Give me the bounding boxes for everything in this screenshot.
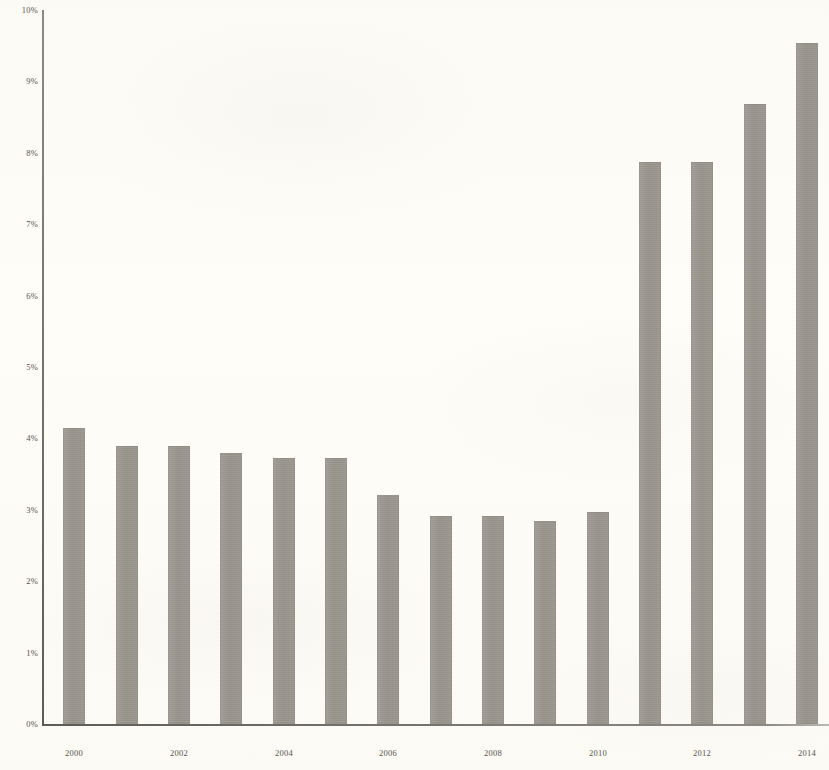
y-axis-tick-0pct: 0% — [4, 719, 38, 729]
bar-2007 — [430, 516, 452, 724]
x-axis-tick-2002: 2002 — [170, 748, 188, 758]
bar-2000 — [63, 428, 85, 724]
x-axis-tick-2000: 2000 — [65, 748, 83, 758]
bar-2005 — [325, 458, 347, 724]
x-axis-tick-2004: 2004 — [275, 748, 293, 758]
y-axis-tick-4pct: 4% — [4, 433, 38, 443]
bar-2003 — [220, 453, 242, 724]
bar-2004 — [273, 458, 295, 724]
y-axis-tick-9pct: 9% — [4, 76, 38, 86]
bar-2010 — [587, 512, 609, 724]
x-axis-tick-2014: 2014 — [798, 748, 816, 758]
x-axis-tick-2006: 2006 — [379, 748, 397, 758]
bar-chart-figure: 0%1%2%3%4%5%6%7%8%9%10% 2000200220042006… — [0, 0, 829, 770]
bar-2011 — [639, 162, 661, 724]
bar-2013 — [744, 104, 766, 724]
x-axis-tick-2010: 2010 — [589, 748, 607, 758]
y-axis-tick-2pct: 2% — [4, 576, 38, 586]
y-axis-tick-3pct: 3% — [4, 505, 38, 515]
bar-2012 — [691, 162, 713, 724]
y-axis-tick-6pct: 6% — [4, 291, 38, 301]
y-axis-tick-8pct: 8% — [4, 148, 38, 158]
y-axis-tick-10pct: 10% — [4, 5, 38, 15]
bars-layer — [44, 10, 829, 724]
bar-2006 — [377, 495, 399, 724]
y-axis-tick-5pct: 5% — [4, 362, 38, 372]
bar-2008 — [482, 516, 504, 724]
plot-area — [42, 10, 829, 726]
x-axis-tick-2012: 2012 — [693, 748, 711, 758]
bar-2014 — [796, 43, 818, 724]
x-axis-tick-labels: 20002002200420062008201020122014 — [42, 748, 829, 768]
x-axis-tick-2008: 2008 — [484, 748, 502, 758]
bar-2009 — [534, 521, 556, 724]
y-axis-tick-7pct: 7% — [4, 219, 38, 229]
y-axis-tick-labels: 0%1%2%3%4%5%6%7%8%9%10% — [0, 10, 38, 726]
bar-2002 — [168, 446, 190, 724]
bar-2001 — [116, 446, 138, 724]
x-axis-line — [42, 724, 829, 726]
y-axis-tick-1pct: 1% — [4, 648, 38, 658]
